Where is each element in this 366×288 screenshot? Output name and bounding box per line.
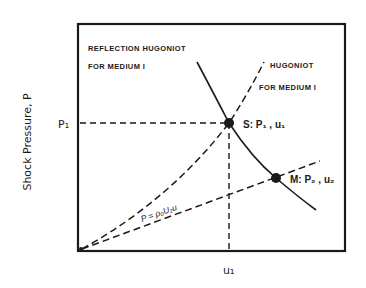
point-s-label: S: P₁ , u₁ [243, 119, 285, 130]
hugoniot-curve [82, 62, 264, 249]
origin-marker [79, 247, 83, 251]
x-tick-u1: u₁ [223, 264, 234, 277]
reflection-hugoniot-label-line1: REFLECTION HUGONIOT [88, 44, 186, 53]
hugoniot-diagram: Shock Pressure, P P₁ u₁ S: P₁ , u₁ M: P₂… [0, 0, 366, 288]
point-m-label: M: P₂ , u₂ [290, 174, 334, 185]
y-tick-p1: P₁ [58, 118, 69, 131]
reflection-hugoniot-label-line2: FOR MEDIUM I [88, 62, 145, 71]
hugoniot-label-line2: FOR MEDIUM I [259, 83, 316, 92]
point-s-marker [224, 118, 234, 128]
point-m-marker [271, 173, 281, 183]
rayleigh-line [82, 161, 320, 249]
hugoniot-label-line1: HUGONIOT [270, 61, 314, 70]
plot-frame [78, 24, 345, 251]
y-axis-label: Shock Pressure, P [21, 93, 34, 191]
